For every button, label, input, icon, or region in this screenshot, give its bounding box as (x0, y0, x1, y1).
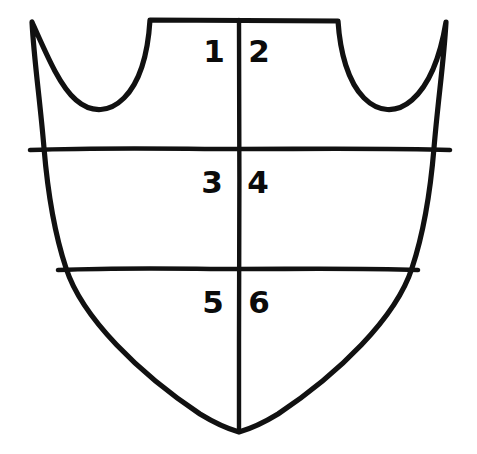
compartment-number-5: 5 (202, 284, 224, 320)
compartment-number-6: 6 (248, 284, 270, 320)
compartment-number-4: 4 (247, 164, 269, 200)
shield-diagram: 1 2 3 4 5 6 (0, 0, 477, 454)
shield-drawing-canvas: 1 2 3 4 5 6 (0, 0, 477, 454)
compartment-number-1: 1 (203, 33, 225, 69)
compartment-number-2: 2 (248, 33, 270, 69)
compartment-number-3: 3 (201, 164, 223, 200)
